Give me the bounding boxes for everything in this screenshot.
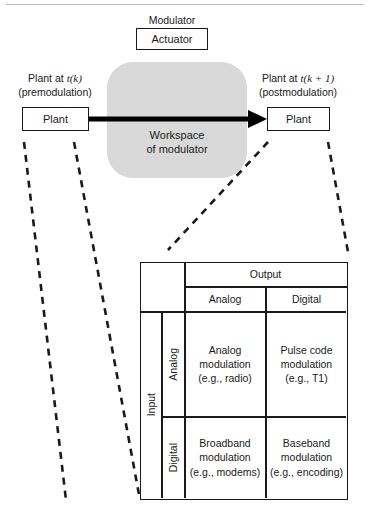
workspace-label-line2: of modulator	[107, 142, 247, 156]
right-plant-caption-line2: (postmodulation)	[246, 86, 350, 99]
matrix-cell-analog-digital-line3: (e.g., T1)	[281, 371, 333, 385]
left-plant-caption-line1: Plant at t(k)	[5, 72, 105, 85]
matrix-input-row-digital-label: Digital	[166, 443, 180, 472]
left-plant-caption-prefix: Plant at	[28, 72, 67, 84]
left-plant-caption-line2: (premodulation)	[5, 86, 105, 99]
modulator-caption: Modulator	[122, 14, 222, 27]
matrix-cell-analog-digital: Pulse code modulation (e.g., T1)	[267, 312, 346, 416]
matrix-input-header-label: Input	[144, 393, 158, 416]
matrix-cell-analog-analog: Analog modulation (e.g., radio)	[185, 312, 265, 416]
matrix-cell-digital-digital-line1: Baseband	[270, 436, 343, 450]
right-plant-caption-var: t(k + 1)	[300, 72, 334, 84]
matrix-cell-analog-digital-line2: modulation	[281, 357, 333, 371]
matrix-cell-digital-analog-line2: modulation	[190, 450, 261, 464]
workspace-label-line1: Workspace	[107, 128, 247, 142]
matrix-cell-digital-analog-line1: Broadband	[190, 436, 261, 450]
matrix-output-column-digital: Digital	[267, 287, 346, 311]
actuator-label: Actuator	[152, 33, 193, 45]
matrix-input-header: Input	[141, 312, 161, 498]
actuator-box: Actuator	[136, 28, 208, 50]
left-plant-caption-var: t(k)	[67, 72, 82, 84]
matrix-cell-analog-digital-line1: Pulse code	[281, 343, 333, 357]
matrix-input-row-analog: Analog	[162, 312, 184, 416]
modulation-figure: Modulator Actuator Workspace of modulato…	[0, 0, 367, 519]
matrix-cell-digital-digital-line2: modulation	[270, 450, 343, 464]
matrix-cell-digital-analog: Broadband modulation (e.g., modems)	[185, 417, 265, 498]
matrix-cell-digital-analog-line3: (e.g., modems)	[190, 465, 261, 479]
right-plant-caption-line1: Plant at t(k + 1)	[248, 72, 348, 85]
right-plant-box: Plant	[267, 107, 330, 131]
left-plant-label: Plant	[43, 113, 68, 125]
right-plant-caption-prefix: Plant at	[262, 72, 301, 84]
matrix-input-row-analog-label: Analog	[166, 348, 180, 381]
matrix-cell-analog-analog-line3: (e.g., radio)	[198, 371, 252, 385]
matrix-cell-analog-analog-line1: Analog	[198, 343, 252, 357]
workspace-label: Workspace of modulator	[107, 128, 247, 157]
modulation-matrix-table: Output Analog Digital Input Analog Digit…	[140, 262, 348, 500]
matrix-input-row-digital: Digital	[162, 417, 184, 498]
matrix-cell-digital-digital-line3: (e.g., encoding)	[270, 465, 343, 479]
matrix-output-column-analog: Analog	[185, 287, 265, 311]
right-plant-label: Plant	[286, 113, 311, 125]
matrix-cell-analog-analog-line2: modulation	[198, 357, 252, 371]
matrix-output-header: Output	[185, 263, 346, 286]
left-plant-box: Plant	[22, 107, 89, 131]
matrix-cell-digital-digital: Baseband modulation (e.g., encoding)	[267, 417, 346, 498]
